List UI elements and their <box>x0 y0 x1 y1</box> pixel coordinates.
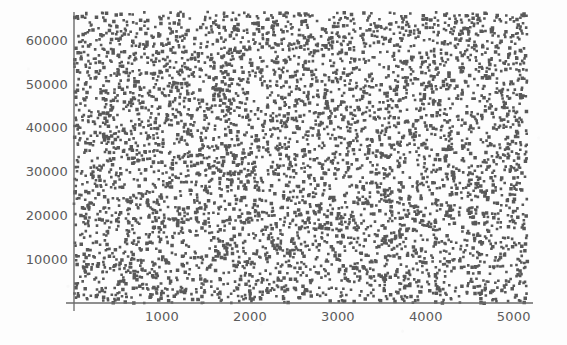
x-axis-tick-labels: 10002000300040005000 <box>145 309 531 324</box>
y-tick-label: 50000 <box>26 77 68 92</box>
y-tick-label: 60000 <box>26 33 68 48</box>
scatter-chart: 100002000030000400005000060000 100020003… <box>0 0 567 345</box>
x-tick-label: 2000 <box>233 309 267 324</box>
x-tick-label: 4000 <box>409 309 443 324</box>
x-tick-label: 5000 <box>497 309 531 324</box>
scatter-points-layer <box>73 11 529 305</box>
y-tick-label: 10000 <box>26 252 68 267</box>
y-tick-label: 40000 <box>26 120 68 135</box>
x-tick-label: 3000 <box>321 309 355 324</box>
scatter-point-cloud <box>73 11 529 305</box>
x-tick-label: 1000 <box>145 309 179 324</box>
y-tick-label: 30000 <box>26 164 68 179</box>
y-axis-tick-labels: 100002000030000400005000060000 <box>26 33 68 267</box>
y-tick-label: 20000 <box>26 208 68 223</box>
scatter-plot-figure: 100002000030000400005000060000 100020003… <box>0 0 567 345</box>
